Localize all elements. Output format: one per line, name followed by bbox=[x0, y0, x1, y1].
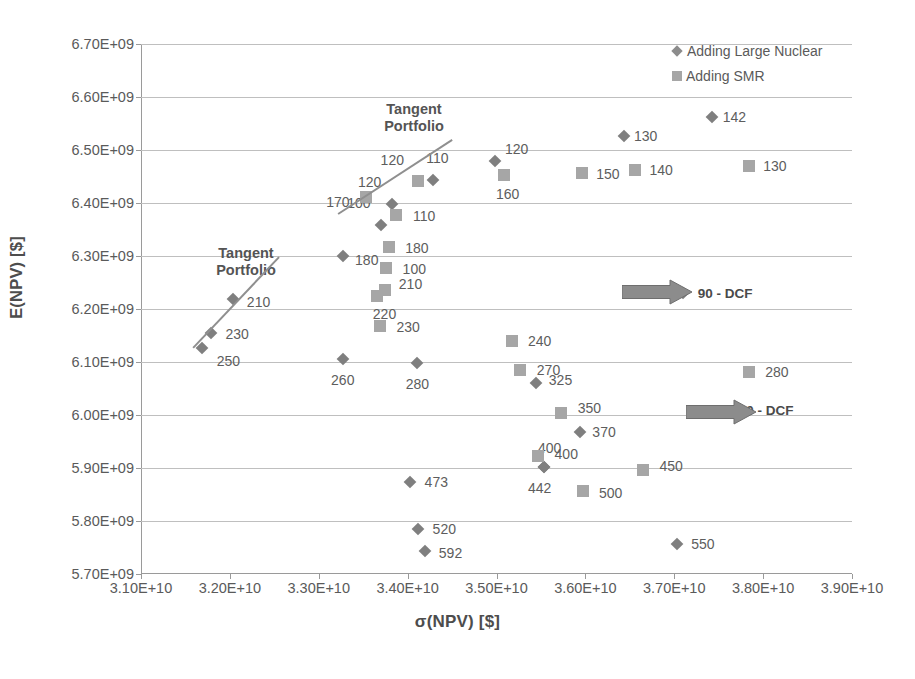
x-axis-tick-label: 3.40E+10 bbox=[376, 580, 439, 596]
data-point-marker[interactable] bbox=[498, 169, 510, 181]
data-point-label: 592 bbox=[439, 545, 462, 561]
y-axis-tick-label: 5.90E+09 bbox=[72, 460, 135, 476]
data-point-marker[interactable] bbox=[336, 250, 349, 263]
data-point-marker[interactable] bbox=[555, 407, 567, 419]
x-axis-tick bbox=[585, 574, 586, 579]
x-axis-tick-label: 3.60E+10 bbox=[554, 580, 617, 596]
data-point-label: 210 bbox=[399, 276, 422, 292]
data-point-label: 442 bbox=[528, 480, 551, 496]
data-point-marker[interactable] bbox=[371, 290, 383, 302]
x-axis-tick-labels: 3.10E+103.20E+103.30E+103.40E+103.50E+10… bbox=[141, 580, 852, 604]
data-point-marker[interactable] bbox=[530, 377, 543, 390]
y-axis-tick bbox=[136, 415, 141, 416]
data-point-marker[interactable] bbox=[532, 450, 544, 462]
data-point-label: 400 bbox=[555, 446, 578, 462]
y-axis-tick bbox=[136, 150, 141, 151]
data-point-marker[interactable] bbox=[671, 538, 684, 551]
x-axis-tick bbox=[674, 574, 675, 579]
y-axis-tick bbox=[136, 309, 141, 310]
x-axis-tick bbox=[141, 574, 142, 579]
legend-label-smr: Adding SMR bbox=[686, 68, 765, 84]
data-point-label: 142 bbox=[723, 109, 746, 125]
data-point-label: 260 bbox=[331, 372, 354, 388]
callout-arrow-icon bbox=[622, 279, 692, 305]
data-point-marker[interactable] bbox=[576, 167, 588, 179]
data-point-label: 160 bbox=[496, 186, 519, 202]
data-point-label: 250 bbox=[217, 353, 240, 369]
x-axis-tick bbox=[408, 574, 409, 579]
data-point-label: 180 bbox=[405, 240, 428, 256]
data-point-label: 230 bbox=[396, 319, 419, 335]
data-point-label: 280 bbox=[406, 376, 429, 392]
x-axis-tick bbox=[497, 574, 498, 579]
data-point-marker[interactable] bbox=[514, 364, 526, 376]
y-axis-tick bbox=[136, 44, 141, 45]
data-point-marker[interactable] bbox=[374, 320, 386, 332]
data-point-marker[interactable] bbox=[743, 366, 755, 378]
data-point-label: 140 bbox=[649, 162, 672, 178]
y-axis-tick-label: 6.60E+09 bbox=[72, 89, 135, 105]
data-point-label: 370 bbox=[592, 424, 615, 440]
gridline bbox=[141, 362, 852, 363]
data-point-label: 350 bbox=[578, 400, 601, 416]
y-axis-tick bbox=[136, 97, 141, 98]
data-point-label: 450 bbox=[659, 458, 682, 474]
data-point-label: 210 bbox=[247, 294, 270, 310]
legend-item-smr[interactable]: Adding SMR bbox=[672, 63, 862, 88]
data-point-label: 520 bbox=[433, 521, 456, 537]
data-point-marker[interactable] bbox=[629, 164, 641, 176]
y-axis-tick-label: 6.20E+09 bbox=[72, 301, 135, 317]
data-point-marker[interactable] bbox=[426, 174, 439, 187]
data-point-marker[interactable] bbox=[577, 485, 589, 497]
data-point-label: 130 bbox=[763, 158, 786, 174]
data-point-marker[interactable] bbox=[336, 352, 349, 365]
x-axis-tick bbox=[763, 574, 764, 579]
data-point-marker[interactable] bbox=[412, 523, 425, 536]
y-axis-tick bbox=[136, 256, 141, 257]
data-point-marker[interactable] bbox=[488, 155, 501, 168]
data-point-marker[interactable] bbox=[743, 160, 755, 172]
data-point-marker[interactable] bbox=[404, 476, 417, 489]
data-point-marker[interactable] bbox=[390, 209, 402, 221]
x-axis-tick-label: 3.80E+10 bbox=[732, 580, 795, 596]
data-point-marker[interactable] bbox=[411, 357, 424, 370]
x-axis-tick-label: 3.90E+10 bbox=[821, 580, 884, 596]
data-point-marker[interactable] bbox=[412, 175, 424, 187]
diamond-marker-icon bbox=[671, 45, 682, 56]
data-point-marker[interactable] bbox=[506, 335, 518, 347]
legend-item-large-nuclear[interactable]: Adding Large Nuclear bbox=[672, 38, 862, 63]
gridline bbox=[141, 468, 852, 469]
data-point-marker[interactable] bbox=[637, 464, 649, 476]
data-point-marker[interactable] bbox=[383, 241, 395, 253]
data-point-marker[interactable] bbox=[537, 461, 550, 474]
scatter-chart: E(NPV) [$] 5.70E+095.80E+095.90E+096.00E… bbox=[0, 0, 915, 679]
y-axis-tick-label: 6.30E+09 bbox=[72, 248, 135, 264]
gridline bbox=[141, 150, 852, 151]
legend-label-large-nuclear: Adding Large Nuclear bbox=[687, 43, 822, 59]
data-point-marker[interactable] bbox=[706, 110, 719, 123]
data-point-label: 180 bbox=[355, 252, 378, 268]
x-axis-tick bbox=[852, 574, 853, 579]
y-axis-tick-label: 6.50E+09 bbox=[72, 142, 135, 158]
data-point-marker[interactable] bbox=[380, 262, 392, 274]
x-axis-tick-label: 3.10E+10 bbox=[110, 580, 173, 596]
data-point-label: 120 bbox=[381, 152, 404, 168]
data-point-label: 150 bbox=[596, 166, 619, 182]
data-point-marker[interactable] bbox=[617, 129, 630, 142]
y-axis-tick-label: 5.80E+09 bbox=[72, 513, 135, 529]
y-axis-tick-label: 6.00E+09 bbox=[72, 407, 135, 423]
data-point-marker[interactable] bbox=[574, 426, 587, 439]
data-point-marker[interactable] bbox=[418, 544, 431, 557]
y-axis-tick-label: 6.40E+09 bbox=[72, 195, 135, 211]
data-point-marker[interactable] bbox=[375, 218, 388, 231]
gridline bbox=[141, 521, 852, 522]
data-point-label: 500 bbox=[599, 485, 622, 501]
data-point-label: 270 bbox=[537, 362, 560, 378]
callout-arrow-icon bbox=[686, 399, 756, 425]
y-axis-title: E(NPV) [$] bbox=[7, 236, 26, 319]
gridline bbox=[141, 97, 852, 98]
x-axis-tick-label: 3.20E+10 bbox=[199, 580, 262, 596]
y-axis-tick-labels: 5.70E+095.80E+095.90E+096.00E+096.10E+09… bbox=[58, 44, 134, 574]
y-axis-tick-label: 6.70E+09 bbox=[72, 36, 135, 52]
chart-legend: Adding Large Nuclear Adding SMR bbox=[672, 38, 862, 88]
